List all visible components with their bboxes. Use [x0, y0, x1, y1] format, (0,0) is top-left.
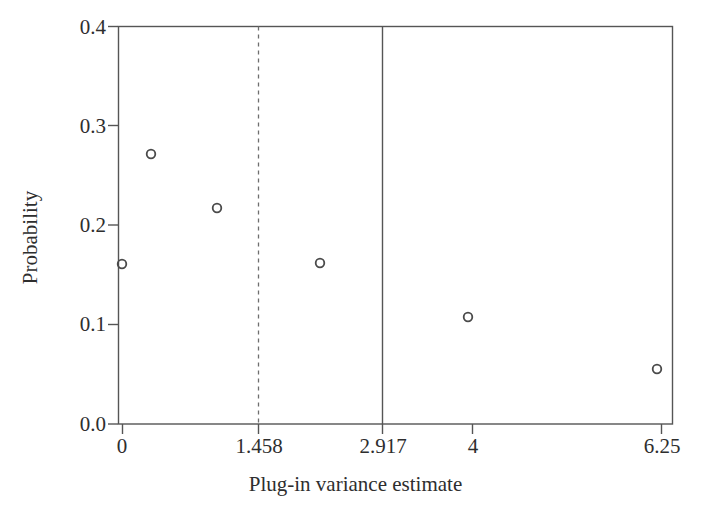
x-tick-label-4: 6.25: [644, 436, 681, 457]
y-axis-title: Probability: [18, 138, 43, 338]
x-tick-label-1: 1.458: [235, 436, 282, 457]
data-point: [653, 365, 662, 374]
y-tick-label-2: 0.2: [0, 215, 106, 236]
data-point: [464, 313, 473, 322]
scatter-plot-figure: 0 1.458 2.917 4 6.25 0.0 0.1 0.2 0.3 0.4…: [0, 0, 711, 517]
data-point: [213, 204, 222, 213]
plot-canvas: [0, 0, 711, 517]
x-axis-ticks: [123, 424, 662, 434]
y-tick-label-3: 0.3: [0, 116, 106, 137]
x-tick-label-0: 0: [117, 436, 128, 457]
y-tick-label-0: 0.0: [0, 414, 106, 435]
y-axis-ticks: [108, 27, 118, 425]
y-tick-label-4: 0.4: [0, 17, 106, 38]
y-tick-label-1: 0.1: [0, 314, 106, 335]
x-tick-label-2: 2.917: [359, 436, 406, 457]
scatter-series: [118, 150, 662, 374]
data-point: [147, 150, 156, 159]
data-point: [316, 259, 325, 268]
x-axis-title: Plug-in variance estimate: [0, 472, 711, 497]
x-tick-label-3: 4: [468, 436, 479, 457]
plot-frame: [119, 27, 673, 425]
